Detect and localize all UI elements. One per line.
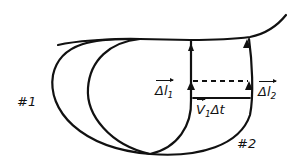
label-v1-dt: V1Δt [196,103,225,119]
surface-1-curve [52,39,252,155]
arrowhead-icon [187,81,195,90]
top-streamline [58,15,286,45]
label-delta-l2: Δl2 [258,85,276,101]
label-surface-1: #1 [17,95,36,108]
surface-2-curve [88,39,191,154]
arrowhead-icon [188,43,194,51]
label-surface-2: #2 [237,137,256,150]
label-delta-l1: Δl1 [155,84,173,100]
